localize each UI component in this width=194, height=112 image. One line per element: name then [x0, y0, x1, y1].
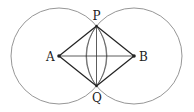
label-b: B	[139, 50, 148, 64]
point-p	[95, 25, 97, 27]
segment-bq	[97, 56, 135, 86]
segment-ap	[59, 26, 97, 56]
segment-pb	[97, 26, 135, 56]
segment-qa	[59, 56, 97, 86]
point-b	[132, 54, 136, 58]
label-q: Q	[92, 91, 102, 105]
label-a: A	[45, 50, 55, 64]
geometry-diagram: A B P Q	[0, 0, 194, 112]
label-p: P	[93, 9, 101, 23]
point-q	[95, 85, 97, 87]
point-a	[57, 54, 61, 58]
